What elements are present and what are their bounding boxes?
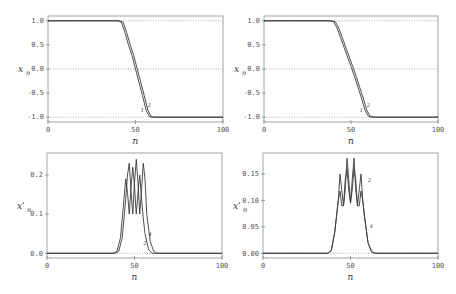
curve-label: 4 <box>369 223 373 229</box>
x-tick-label: 100 <box>217 126 230 134</box>
x-tick-label: 0 <box>45 262 49 270</box>
y-tick-label: 0.15 <box>242 170 259 178</box>
panel-top-right: 1.00.50.0-0.5-1.0050100nxn12 <box>234 16 444 146</box>
data-series-4 <box>263 158 438 253</box>
y-tick-label: -0.5 <box>27 89 44 97</box>
panel-bottom-left: 0.20.10.0050100nx'n42 <box>17 153 228 282</box>
y-tick-label: -0.5 <box>243 89 260 97</box>
data-series-4 <box>47 159 222 253</box>
curve-label: 1 <box>360 107 363 113</box>
x-tick-label: 0 <box>261 262 265 270</box>
y-tick-label: 0.5 <box>31 41 44 49</box>
y-axis-label-subscript: n <box>242 69 246 77</box>
y-tick-label: 0.0 <box>31 65 44 73</box>
y-tick-label: 1.0 <box>247 17 260 25</box>
x-tick-label: 0 <box>46 126 50 134</box>
x-tick-label: 100 <box>432 126 445 134</box>
y-tick-label: -1.0 <box>243 113 260 121</box>
curve-label: 2 <box>147 102 151 108</box>
panel-bottom-right: 0.150.100.050.00050100nx'n24 <box>233 153 444 282</box>
x-tick-label: 50 <box>346 262 354 270</box>
x-tick-label: 0 <box>262 126 266 134</box>
x-axis-label: n <box>348 136 354 146</box>
y-tick-label: -1.0 <box>27 113 44 121</box>
x-axis-label: n <box>133 136 139 146</box>
y-tick-label: 0.10 <box>242 197 259 205</box>
y-axis-label-subscript: n <box>243 206 247 214</box>
curve-label: 2 <box>142 240 146 246</box>
curve-label: 2 <box>367 177 371 183</box>
x-axis-label: n <box>132 272 138 282</box>
x-tick-label: 100 <box>216 262 229 270</box>
y-axis-label: x <box>234 64 239 74</box>
y-axis-label-subscript: n <box>26 69 30 77</box>
curve-label: 4 <box>148 231 152 237</box>
x-tick-label: 50 <box>130 262 138 270</box>
y-axis-label: x' <box>233 201 241 211</box>
y-tick-label: 0.05 <box>242 223 259 231</box>
panel-top-left: 1.00.50.0-0.5-1.0050100nxn12 <box>18 16 229 146</box>
curve-label: 1 <box>141 107 144 113</box>
data-series-1 <box>48 21 223 117</box>
y-tick-label: 0.0 <box>247 65 260 73</box>
y-tick-label: 0.0 <box>30 250 43 258</box>
curve-label: 2 <box>366 102 370 108</box>
y-axis-label: x <box>18 64 23 74</box>
y-tick-label: 0.1 <box>30 210 43 218</box>
plot-frame <box>47 153 222 258</box>
figure: 1.00.50.0-0.5-1.0050100nxn12 1.00.50.0-0… <box>0 0 456 294</box>
y-tick-label: 0.00 <box>242 250 259 258</box>
y-tick-label: 1.0 <box>31 17 44 25</box>
y-axis-label: x' <box>17 201 25 211</box>
x-tick-label: 50 <box>347 126 355 134</box>
x-axis-label: n <box>348 272 354 282</box>
plot-frame <box>263 153 438 258</box>
x-tick-label: 100 <box>432 262 445 270</box>
y-axis-label-subscript: n <box>27 206 31 214</box>
data-series-2 <box>263 169 438 253</box>
y-tick-label: 0.5 <box>247 41 260 49</box>
y-tick-label: 0.2 <box>30 171 43 179</box>
x-tick-label: 50 <box>131 126 139 134</box>
